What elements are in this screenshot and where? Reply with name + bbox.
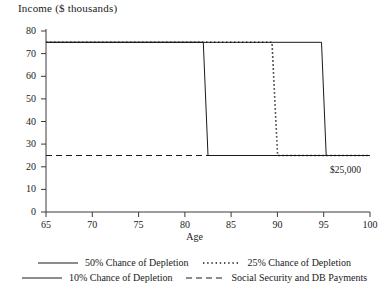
x-tick-label: 95 bbox=[309, 220, 339, 230]
x-tick-label: 65 bbox=[31, 220, 61, 230]
series-50-percent-chance-of-depletion bbox=[46, 42, 370, 155]
y-tick-label: 80 bbox=[14, 26, 36, 36]
legend-swatch-solid-icon bbox=[38, 258, 78, 268]
legend-label: Social Security and DB Payments bbox=[232, 272, 368, 283]
legend-swatch-solid-icon bbox=[22, 273, 62, 283]
y-tick-label: 10 bbox=[14, 184, 36, 194]
x-tick-label: 80 bbox=[170, 220, 200, 230]
chart-legend: 50% Chance of Depletion 25% Chance of De… bbox=[0, 255, 389, 285]
legend-swatch-dotted-icon bbox=[201, 258, 241, 268]
y-tick-label: 60 bbox=[14, 71, 36, 81]
legend-row: 10% Chance of Depletion Social Security … bbox=[0, 270, 389, 285]
y-ticks bbox=[41, 31, 46, 212]
x-tick-label: 100 bbox=[355, 220, 385, 230]
x-axis-label: Age bbox=[0, 231, 389, 242]
y-tick-label: 40 bbox=[14, 117, 36, 127]
legend-label: 50% Chance of Depletion bbox=[85, 257, 189, 268]
chart-figure: Income ($ thousands) bbox=[0, 0, 389, 288]
y-tick-label: 20 bbox=[14, 162, 36, 172]
legend-entry-social-security: Social Security and DB Payments bbox=[185, 272, 368, 283]
x-tick-label: 70 bbox=[77, 220, 107, 230]
y-tick-label: 30 bbox=[14, 139, 36, 149]
annotation-income-floor: $25,000 bbox=[330, 165, 361, 175]
y-tick-label: 0 bbox=[14, 207, 36, 217]
legend-label: 25% Chance of Depletion bbox=[248, 257, 352, 268]
legend-row: 50% Chance of Depletion 25% Chance of De… bbox=[0, 255, 389, 270]
plot-area bbox=[0, 0, 389, 288]
legend-entry-25-percent: 25% Chance of Depletion bbox=[201, 257, 352, 268]
legend-entry-10-percent: 10% Chance of Depletion bbox=[22, 272, 173, 283]
x-tick-label: 85 bbox=[216, 220, 246, 230]
series-25-percent-chance-of-depletion bbox=[46, 42, 370, 155]
x-ticks bbox=[46, 212, 370, 217]
legend-swatch-dashed-icon bbox=[185, 273, 225, 283]
y-tick-label: 50 bbox=[14, 94, 36, 104]
x-tick-label: 75 bbox=[124, 220, 154, 230]
legend-label: 10% Chance of Depletion bbox=[69, 272, 173, 283]
x-tick-label: 90 bbox=[262, 220, 292, 230]
legend-entry-50-percent: 50% Chance of Depletion bbox=[38, 257, 189, 268]
series-10-percent-chance-of-depletion bbox=[46, 42, 370, 155]
y-tick-label: 70 bbox=[14, 49, 36, 59]
